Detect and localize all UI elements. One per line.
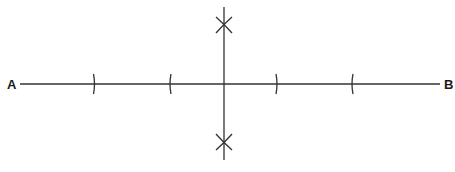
point-a-label: A <box>7 78 16 91</box>
diagram-canvas <box>0 0 455 172</box>
construction-figure <box>0 0 455 172</box>
point-b-label: B <box>444 78 453 91</box>
